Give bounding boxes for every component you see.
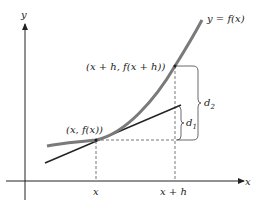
curve-label: y = f(x) — [206, 13, 245, 24]
tick-label-x-plus-h: x + h — [160, 186, 187, 197]
d1-bracket — [177, 106, 184, 140]
point-q-label: (x + h, f(x + h)) — [86, 61, 165, 72]
x-axis-label: x — [245, 176, 251, 187]
d2-label: d2 — [204, 97, 215, 111]
tick-label-x: x — [93, 186, 99, 197]
point-p-label: (x, f(x)) — [66, 124, 103, 135]
point-q — [173, 64, 176, 67]
d1-label: d1 — [186, 117, 197, 131]
y-axis-label: y — [20, 9, 27, 20]
derivative-diagram: y x y = f(x) (x + h, f(x + h)) (x, f(x))… — [0, 0, 256, 206]
point-p — [94, 138, 97, 141]
